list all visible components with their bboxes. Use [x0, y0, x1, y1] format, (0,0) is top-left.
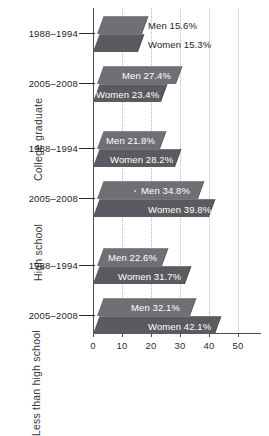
x-tick-label-0: 0 — [90, 340, 95, 351]
bar-label-men-0: Men 15.6% — [148, 21, 197, 31]
bar-label-women-4: Women 31.7% — [118, 272, 181, 282]
x-tick-label-10: 10 — [117, 340, 128, 351]
bar-label-women-2: Women 28.2% — [110, 155, 173, 165]
x-tick-label-30: 30 — [175, 340, 186, 351]
bar-label-men-5: Men 32.1% — [131, 303, 180, 313]
period-label-3: 2005–2008 — [8, 193, 78, 204]
period-label-1: 2005–2008 — [8, 78, 78, 89]
x-tick-50 — [238, 333, 239, 337]
period-label-2: 1988–1994 — [8, 143, 78, 154]
bar-label-women-1: Women 23.4% — [96, 90, 159, 100]
gridline-30 — [180, 8, 181, 333]
bar-label-women-5: Women 42.1% — [148, 322, 211, 332]
bar-label-men-4: Men 22.6% — [108, 253, 157, 263]
x-tick-label-50: 50 — [233, 340, 244, 351]
bar-label-men-3: Men 34.8% — [141, 186, 190, 196]
gridline-20 — [151, 8, 152, 333]
y-axis-line — [93, 8, 94, 333]
bar-label-men-2: Men 21.8% — [106, 136, 155, 146]
period-label-5: 2005–2008 — [8, 310, 78, 321]
bar-women-0 — [93, 34, 138, 52]
bullet-marker-icon — [134, 190, 136, 192]
bar-label-women-3: Women 39.8% — [148, 205, 211, 215]
x-tick-label-40: 40 — [204, 340, 215, 351]
gridline-40 — [209, 8, 210, 333]
period-label-0: 1988–1994 — [8, 28, 78, 39]
gridline-50 — [238, 8, 239, 333]
bar-label-women-0: Women 15.3% — [148, 40, 211, 50]
period-label-4: 1988–1994 — [8, 260, 78, 271]
bar-label-men-1: Men 27.4% — [122, 71, 171, 81]
bar-men-0 — [97, 16, 142, 34]
x-tick-label-20: 20 — [146, 340, 157, 351]
gridline-10 — [122, 8, 123, 333]
